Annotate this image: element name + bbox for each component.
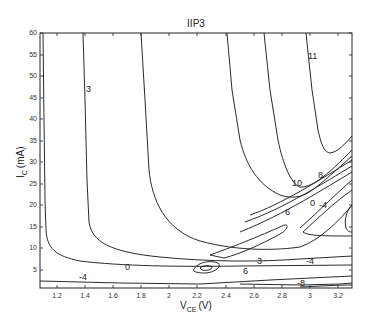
contour-6-island <box>194 262 220 273</box>
x-tick-label: 2.4 <box>221 292 231 299</box>
y-tick-label: 45 <box>29 94 37 101</box>
y-axis-label: IC(mA) <box>15 146 28 178</box>
contour-3-left <box>83 33 352 261</box>
contour-label: 11 <box>308 51 317 61</box>
contour-8 <box>227 33 352 197</box>
x-tick-label: 3 <box>308 292 312 299</box>
contour-6 <box>141 33 352 249</box>
x-tick-label: 2.6 <box>249 292 259 299</box>
y-tick-label: 10 <box>29 244 37 251</box>
contour-labels: 11 3 10 8 6 0 -4 0 -4 3 6 -4 -8 <box>79 51 327 288</box>
contour-label: 6 <box>243 266 248 276</box>
x-tick-label: 2.8 <box>277 292 287 299</box>
y-tick-label: 60 <box>29 29 37 36</box>
y-tick-label: 25 <box>29 180 37 187</box>
contour-neg4-right <box>345 205 352 232</box>
contour-label: -4 <box>306 256 314 266</box>
contour-label: 3 <box>86 84 91 94</box>
contour-lines <box>40 33 352 287</box>
y-tick-label: 50 <box>29 72 37 79</box>
x-tick-label: 1.2 <box>52 292 62 299</box>
y-tick-label: 15 <box>29 223 37 230</box>
contour-label: 8 <box>318 170 323 180</box>
y-axis-label-unit: (mA) <box>15 146 26 168</box>
x-tick-label: 2 <box>167 292 171 299</box>
contour-label: 6 <box>285 207 290 217</box>
y-tick-label: 35 <box>29 137 37 144</box>
y-tick-label: 20 <box>29 201 37 208</box>
x-tick-label: 1.4 <box>80 292 90 299</box>
x-axis-label-unit: (V) <box>198 300 211 311</box>
x-axis-label-sub: CE <box>187 306 197 313</box>
y-tick-label: 5 <box>33 266 37 273</box>
contour-label: -4 <box>319 200 327 210</box>
contour-3-wedge <box>210 225 287 258</box>
contour-label: -8 <box>297 278 305 288</box>
y-tick-label: 55 <box>29 51 37 58</box>
x-tick-label: 3.2 <box>333 292 343 299</box>
x-axis-label: VCE(V) <box>180 300 212 313</box>
contour-neg8-bottom <box>240 283 352 285</box>
y-tick-label: 30 <box>29 158 37 165</box>
contour-label: -4 <box>79 272 87 282</box>
x-tick-label: 1.6 <box>108 292 118 299</box>
contour-label: 0 <box>310 198 315 208</box>
x-tick-label: 2.2 <box>192 292 202 299</box>
contour-label: 3 <box>257 256 262 266</box>
contour-label: 10 <box>292 178 302 188</box>
iip3-contour-chart: IIP3 11 3 10 <box>0 0 370 325</box>
y-tick-label: 40 <box>29 115 37 122</box>
x-tick-label: 1.8 <box>136 292 146 299</box>
y-axis: 5 10 15 20 25 30 35 40 45 50 55 60 <box>29 29 352 273</box>
contour-label: 0 <box>125 262 130 272</box>
chart-title: IIP3 <box>187 18 205 29</box>
contour-left-edge <box>43 33 352 266</box>
y-axis-label-sub: C <box>21 170 28 175</box>
